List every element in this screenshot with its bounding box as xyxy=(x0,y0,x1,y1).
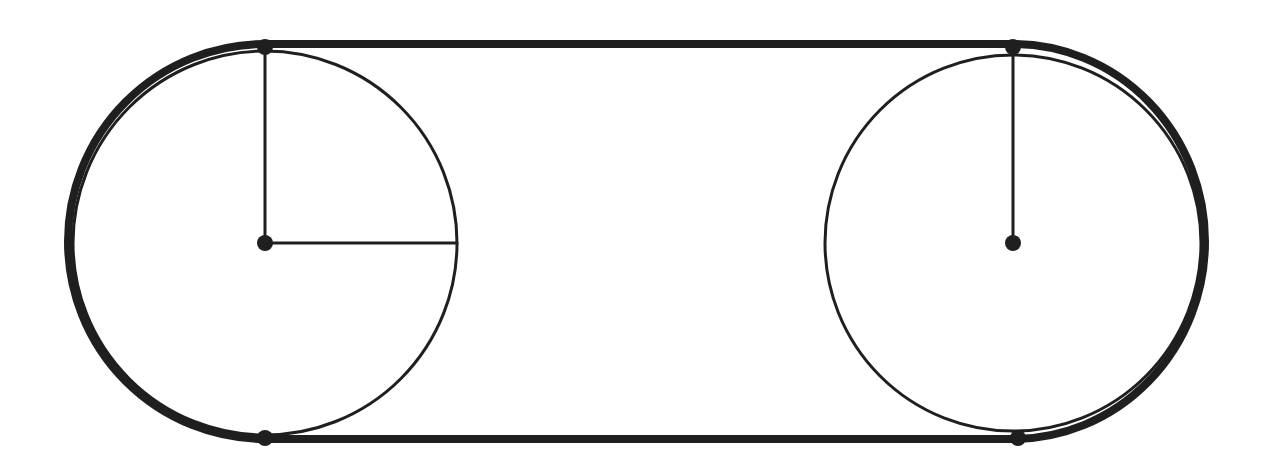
left-top-tangent-point xyxy=(257,39,273,55)
left-center-point xyxy=(257,235,273,251)
left-bottom-tangent-point xyxy=(257,430,273,446)
right-top-tangent-point xyxy=(1005,39,1021,55)
belt-pulley-diagram xyxy=(0,0,1269,468)
right-center-point xyxy=(1005,235,1021,251)
belt xyxy=(68,44,1205,439)
right-bottom-tangent-point xyxy=(1010,430,1026,446)
